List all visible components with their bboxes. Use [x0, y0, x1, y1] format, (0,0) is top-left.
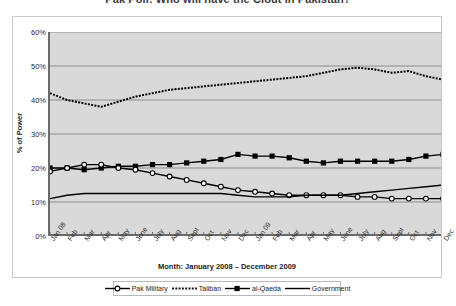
data-point-marker [167, 162, 172, 167]
data-point-marker [424, 196, 429, 201]
data-point-marker [150, 162, 155, 167]
data-point-marker [372, 159, 377, 164]
legend-label: al-Qaeda [252, 285, 281, 292]
chart-legend: Pak MilitaryTalibanal-QaedaGovernment [113, 281, 341, 296]
data-point-marker [184, 160, 189, 165]
series-line-al-qaeda [50, 154, 441, 169]
data-point-marker [338, 159, 343, 164]
chart-frame: % of Power 0%10%20%30%40%50%60% Jan 08Fe… [12, 16, 442, 278]
data-point-marker [406, 157, 411, 162]
data-point-marker [184, 178, 189, 183]
data-point-marker [201, 181, 206, 186]
x-axis-title: Month: January 2008 – December 2009 [13, 262, 441, 271]
data-point-marker [201, 159, 206, 164]
data-point-marker [133, 167, 138, 172]
data-point-marker [372, 195, 377, 200]
data-point-marker [440, 152, 441, 157]
y-tick-label: 40% [31, 96, 46, 105]
data-point-marker [389, 159, 394, 164]
data-point-marker [389, 196, 394, 201]
chart-title: Pak Poll: Who will have the Clout in Pak… [0, 0, 456, 5]
legend-item-taliban[interactable]: Taliban [171, 284, 221, 293]
data-point-marker [150, 171, 155, 176]
data-point-marker [82, 162, 87, 167]
series-line-taliban [50, 68, 441, 107]
data-point-marker [406, 196, 411, 201]
legend-key-line-open-diamond [104, 284, 131, 293]
data-point-marker [99, 162, 104, 167]
legend-label: Taliban [199, 285, 221, 292]
legend-label: Pak Military [132, 285, 168, 292]
y-tick-label: 30% [31, 130, 46, 139]
data-point-marker [270, 154, 275, 159]
data-point-marker [355, 195, 360, 200]
chart-screenshot: Pak Poll: Who will have the Clout in Pak… [0, 0, 456, 306]
y-tick-label: 20% [31, 164, 46, 173]
data-point-marker [116, 166, 121, 171]
data-point-marker [287, 155, 292, 160]
data-point-marker [218, 157, 223, 162]
legend-key-line-filled-square [224, 284, 251, 293]
legend-item-al-qaeda[interactable]: al-Qaeda [224, 284, 281, 293]
data-point-marker [50, 169, 52, 174]
x-tick-label: Dec [442, 228, 455, 242]
data-point-marker [423, 154, 428, 159]
data-point-marker [82, 167, 87, 172]
y-tick-label: 50% [31, 62, 46, 71]
data-point-marker [65, 166, 70, 171]
y-tick-label: 60% [31, 28, 46, 37]
data-point-marker [304, 159, 309, 164]
data-point-marker [253, 189, 258, 194]
data-point-marker [321, 160, 326, 165]
y-tick-label: 10% [31, 198, 46, 207]
data-point-marker [167, 174, 172, 179]
data-point-marker [236, 188, 241, 193]
series-canvas [50, 32, 441, 234]
data-point-marker [355, 159, 360, 164]
data-point-marker [235, 152, 240, 157]
data-point-marker [218, 184, 223, 189]
data-point-marker [270, 191, 275, 196]
y-axis-label: % of Power [15, 113, 24, 153]
legend-key-line-solid [284, 284, 311, 293]
y-tick-label: 0% [35, 232, 46, 241]
legend-label: Government [312, 285, 351, 292]
plot-inner [50, 32, 441, 234]
legend-item-government[interactable]: Government [284, 284, 351, 293]
plot-area: % of Power 0%10%20%30%40%50%60% Jan 08Fe… [48, 32, 441, 236]
legend-item-pak-military[interactable]: Pak Military [104, 284, 168, 293]
series-line-government [50, 185, 441, 199]
legend-key-line-dotted [171, 284, 198, 293]
data-point-marker [252, 154, 257, 159]
